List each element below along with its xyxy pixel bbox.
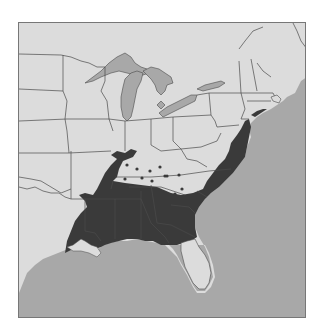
map-canvas: [19, 23, 306, 318]
range-map: Species range map — eastern United State…: [18, 22, 306, 318]
